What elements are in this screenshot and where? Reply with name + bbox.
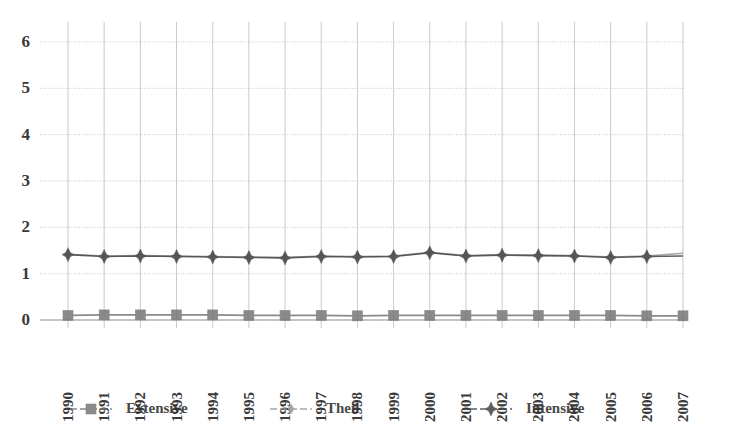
series-layer: [62, 246, 688, 321]
x-axis-tick-label: 1999: [386, 392, 402, 422]
series-theil: [65, 247, 683, 262]
series-extensive: [63, 310, 688, 321]
star-marker-icon: [532, 249, 544, 263]
square-marker-icon: [135, 310, 145, 320]
y-axis-tick-label: 1: [22, 264, 31, 283]
star-marker-icon: [605, 250, 617, 264]
square-marker-icon: [244, 310, 254, 320]
square-marker-icon: [678, 311, 688, 321]
grid-layer: [40, 22, 685, 328]
square-marker-icon: [461, 310, 471, 320]
y-axis-ticks: 0123456: [22, 32, 31, 329]
square-marker-icon: [569, 310, 579, 320]
square-marker-icon: [606, 310, 616, 320]
square-marker-icon: [63, 310, 73, 320]
y-axis-tick-label: 0: [22, 310, 31, 329]
x-axis-tick-label: 2006: [639, 392, 655, 423]
star-marker-icon: [388, 250, 400, 264]
legend-item-extensive[interactable]: Extensive: [70, 400, 188, 416]
square-marker-icon: [86, 404, 96, 414]
y-axis-tick-label: 3: [22, 171, 31, 190]
star-marker-icon: [134, 249, 146, 263]
x-axis-tick-label: 2001: [458, 392, 474, 422]
legend-label: Theil: [326, 400, 359, 416]
star-marker-icon: [568, 249, 580, 263]
square-marker-icon: [533, 310, 543, 320]
legend-label: Intensive: [526, 400, 585, 416]
square-marker-icon: [316, 310, 326, 320]
legend-label: Extensive: [126, 400, 188, 416]
x-axis-tick-label: 2007: [675, 392, 691, 423]
star-marker-icon: [98, 250, 110, 264]
x-axis-tick-label: 1994: [205, 392, 221, 423]
square-marker-icon: [352, 311, 362, 321]
line-chart: 0123456 19901991199219931994199519961997…: [0, 0, 740, 434]
y-axis-tick-label: 5: [22, 78, 31, 97]
star-marker-icon: [641, 250, 653, 264]
star-marker-icon: [496, 248, 508, 262]
star-marker-icon: [424, 246, 436, 260]
y-axis-tick-label: 2: [22, 217, 31, 236]
star-marker-icon: [207, 250, 219, 264]
star-marker-icon: [171, 250, 183, 264]
x-axis-tick-label: 2002: [494, 392, 510, 422]
star-marker-icon: [460, 249, 472, 263]
star-marker-icon: [243, 250, 255, 264]
star-marker-icon: [62, 248, 74, 262]
legend-item-intensive[interactable]: Intensive: [470, 400, 585, 416]
square-marker-icon: [99, 310, 109, 320]
star-marker-icon: [351, 250, 363, 264]
square-marker-icon: [642, 311, 652, 321]
square-marker-icon: [172, 310, 182, 320]
star-marker-icon: [315, 250, 327, 264]
x-axis-tick-label: 1990: [60, 392, 76, 422]
x-axis-tick-label: 2000: [422, 392, 438, 422]
square-marker-icon: [280, 310, 290, 320]
x-axis-tick-label: 1995: [241, 392, 257, 422]
x-axis-tick-label: 2005: [603, 392, 619, 422]
square-marker-icon: [389, 310, 399, 320]
series-line: [68, 315, 683, 316]
chart-canvas: 0123456 19901991199219931994199519961997…: [0, 0, 740, 434]
star-marker-icon: [279, 251, 291, 265]
square-marker-icon: [425, 310, 435, 320]
x-axis-tick-label: 1991: [96, 392, 112, 422]
square-marker-icon: [497, 310, 507, 320]
y-axis-tick-label: 4: [22, 125, 31, 144]
y-axis-tick-label: 6: [22, 32, 31, 51]
square-marker-icon: [208, 310, 218, 320]
